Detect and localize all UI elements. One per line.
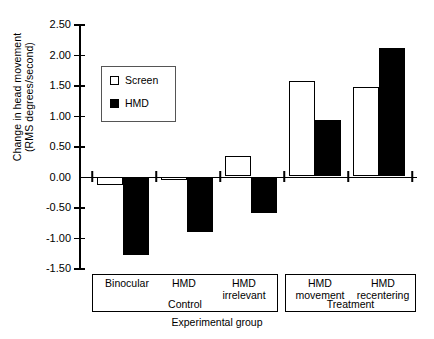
y-tick-2.00: [74, 55, 85, 57]
x-tick-4: [347, 171, 349, 182]
legend-item-screen: Screen: [110, 75, 175, 86]
x-tick-3: [283, 171, 285, 182]
category-label-hmd-recentering-line1: HMD: [371, 277, 395, 289]
y-tick-0.50: [74, 146, 85, 148]
x-tick-1: [155, 171, 157, 182]
legend-item-hmd: HMD: [110, 98, 175, 109]
category-label-hmd: HMD: [158, 277, 210, 289]
y-axis-title-line1: Change in head movement: [11, 33, 24, 161]
category-label-hmd-irrelevant-line1: HMD: [232, 277, 256, 289]
y-axis-title-line2: (RMS degrees/second): [23, 33, 36, 161]
y-tick-1.50: [74, 85, 85, 87]
legend-label-hmd: HMD: [125, 98, 149, 109]
legend-label-screen: Screen: [125, 75, 158, 86]
bar-hmd-recentering-hmd: [379, 48, 405, 176]
plot-area: 2.50 2.00 1.50 1.00 0.50 0.00 -0.50 -1.0…: [79, 24, 417, 268]
y-tick-label-6: -0.50: [46, 201, 71, 213]
y-tick-label-7: -1.00: [46, 232, 71, 244]
x-axis-title: Experimental group: [0, 316, 434, 328]
x-tick-2: [219, 171, 221, 182]
category-label-binocular-line1: Binocular: [105, 277, 149, 289]
category-label-binocular: Binocular: [96, 277, 158, 289]
legend-swatch-filled-square-icon: [110, 99, 119, 108]
y-tick-neg1.50: [74, 268, 85, 270]
bar-binocular-screen: [97, 177, 123, 185]
bar-hmd-movement-hmd: [315, 120, 341, 176]
y-tick-label-2: 1.50: [50, 79, 71, 91]
bar-hmd-irrelevant-screen: [225, 156, 251, 176]
y-tick-2.50: [74, 24, 85, 26]
y-tick-label-5: 0.00: [50, 171, 71, 183]
category-label-hmd-line1: HMD: [172, 277, 196, 289]
bar-hmd-irrelevant-hmd: [251, 177, 277, 214]
category-label-hmd-movement-line1: HMD: [308, 277, 332, 289]
y-tick-label-4: 0.50: [50, 140, 71, 152]
bar-hmd-recentering-screen: [353, 87, 379, 176]
y-tick-label-0: 2.50: [50, 18, 71, 30]
group-label-control: Control: [92, 298, 278, 310]
bar-hmd-hmd: [187, 177, 213, 232]
y-tick-label-1: 2.00: [50, 49, 71, 61]
y-axis-title: Change in head movement (RMS degrees/sec…: [8, 0, 38, 204]
y-tick-neg1.00: [74, 238, 85, 240]
y-tick-label-8: -1.50: [46, 262, 71, 274]
group-label-treatment: Treatment: [285, 298, 416, 310]
bar-hmd-screen: [161, 177, 187, 180]
x-tick-5: [411, 171, 413, 182]
x-tick-0: [91, 171, 93, 182]
legend-swatch-open-square-icon: [110, 76, 119, 85]
legend: Screen HMD: [101, 66, 176, 122]
bar-chart: Change in head movement (RMS degrees/sec…: [0, 0, 434, 339]
y-tick-label-3: 1.00: [50, 110, 71, 122]
y-tick-1.00: [74, 116, 85, 118]
bar-hmd-movement-screen: [289, 81, 315, 177]
y-tick-neg0.50: [74, 207, 85, 209]
bar-binocular-hmd: [123, 177, 149, 255]
